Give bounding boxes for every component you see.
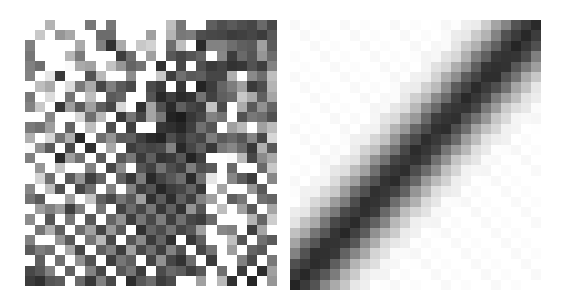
heatmap-cell — [410, 72, 420, 82]
heatmap-cell — [370, 280, 380, 290]
heatmap-cell — [116, 92, 126, 102]
heatmap-cell — [186, 266, 196, 276]
heatmap-cell — [146, 214, 156, 224]
heatmap-cell — [410, 259, 420, 269]
heatmap-cell — [75, 40, 85, 50]
heatmap-cell — [217, 81, 227, 91]
heatmap-cell — [146, 61, 156, 71]
heatmap-cell — [45, 184, 55, 194]
heatmap-cell — [531, 134, 541, 144]
heatmap-cell — [421, 51, 431, 61]
heatmap-cell — [350, 186, 360, 196]
heatmap-cell — [320, 207, 330, 217]
heatmap-cell — [136, 204, 146, 214]
heatmap-cell — [237, 255, 247, 265]
heatmap-cell — [511, 145, 521, 155]
heatmap-cell — [310, 238, 320, 248]
heatmap-cell — [146, 92, 156, 102]
heatmap-cell — [531, 207, 541, 217]
heatmap-cell — [501, 103, 511, 113]
heatmap-cell — [491, 72, 501, 82]
heatmap-cell — [461, 186, 471, 196]
heatmap-cell — [96, 235, 106, 245]
heatmap-cell — [390, 238, 400, 248]
heatmap-cell — [360, 217, 370, 227]
heatmap-cell — [390, 20, 400, 30]
heatmap-cell — [521, 82, 531, 92]
heatmap-cell — [410, 269, 420, 279]
heatmap-cell — [451, 51, 461, 61]
heatmap-cell — [146, 81, 156, 91]
heatmap-cell — [96, 71, 106, 81]
heatmap-cell — [501, 20, 511, 30]
heatmap-cell — [267, 92, 277, 102]
heatmap-cell — [410, 30, 420, 40]
heatmap-cell — [126, 81, 136, 91]
heatmap-cell — [370, 165, 380, 175]
heatmap-cell — [267, 81, 277, 91]
heatmap-cell — [310, 248, 320, 258]
heatmap-cell — [196, 61, 206, 71]
heatmap-cell — [441, 134, 451, 144]
heatmap-cell — [126, 122, 136, 132]
heatmap-cell — [431, 93, 441, 103]
heatmap-cell — [237, 133, 247, 143]
heatmap-cell — [531, 145, 541, 155]
heatmap-cell — [35, 266, 45, 276]
heatmap-cell — [106, 204, 116, 214]
heatmap-cell — [380, 62, 390, 72]
heatmap-cell — [227, 276, 237, 286]
heatmap-cell — [55, 184, 65, 194]
heatmap-cell — [247, 81, 257, 91]
heatmap-cell — [501, 165, 511, 175]
heatmap-cell — [350, 51, 360, 61]
heatmap-cell — [85, 214, 95, 224]
heatmap-cell — [350, 103, 360, 113]
heatmap-cell — [300, 30, 310, 40]
heatmap-cell — [227, 266, 237, 276]
heatmap-cell — [521, 228, 531, 238]
heatmap-cell — [146, 204, 156, 214]
heatmap-cell — [421, 41, 431, 51]
heatmap-cell — [360, 20, 370, 30]
heatmap-cell — [330, 217, 340, 227]
heatmap-cell — [65, 276, 75, 286]
heatmap-cell — [106, 112, 116, 122]
heatmap-cell — [400, 62, 410, 72]
heatmap-cell — [247, 173, 257, 183]
heatmap-cell — [491, 269, 501, 279]
heatmap-cell — [146, 51, 156, 61]
heatmap-cell — [156, 194, 166, 204]
heatmap-cell — [206, 102, 216, 112]
heatmap-cell — [501, 145, 511, 155]
heatmap-cell — [136, 40, 146, 50]
heatmap-cell — [186, 71, 196, 81]
heatmap-cell — [206, 143, 216, 153]
heatmap-cell — [340, 134, 350, 144]
heatmap-cell — [340, 238, 350, 248]
heatmap-cell — [217, 20, 227, 30]
heatmap-cell — [340, 207, 350, 217]
heatmap-cell — [491, 145, 501, 155]
heatmap-cell — [227, 194, 237, 204]
heatmap-cell — [531, 165, 541, 175]
heatmap-cell — [166, 61, 176, 71]
heatmap-cell — [461, 155, 471, 165]
heatmap-cell — [227, 61, 237, 71]
heatmap-cell — [491, 20, 501, 30]
heatmap-cell — [461, 259, 471, 269]
heatmap-cell — [237, 214, 247, 224]
heatmap-cell — [350, 113, 360, 123]
heatmap-cell — [340, 165, 350, 175]
heatmap-cell — [330, 269, 340, 279]
heatmap-cell — [410, 217, 420, 227]
heatmap-cell — [410, 20, 420, 30]
heatmap-cell — [186, 81, 196, 91]
heatmap-cell — [126, 235, 136, 245]
heatmap-cell — [350, 134, 360, 144]
heatmap-cell — [340, 30, 350, 40]
heatmap-cell — [310, 62, 320, 72]
heatmap-cell — [531, 197, 541, 207]
heatmap-cell — [35, 245, 45, 255]
heatmap-cell — [217, 51, 227, 61]
